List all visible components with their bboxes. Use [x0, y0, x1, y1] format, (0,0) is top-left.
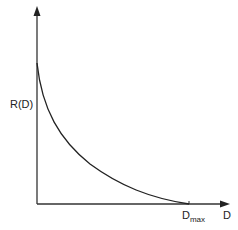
x-axis-label: D [223, 210, 231, 221]
dmax-label: Dmax [182, 210, 205, 224]
y-axis-label: R(D) [10, 99, 33, 110]
rd-curve [37, 63, 189, 204]
dmax-subscript: max [190, 215, 205, 224]
rate-distortion-chart [0, 0, 238, 230]
dmax-main: D [182, 209, 190, 221]
x-axis-arrow-icon [220, 201, 230, 208]
y-axis-arrow-icon [34, 6, 41, 16]
